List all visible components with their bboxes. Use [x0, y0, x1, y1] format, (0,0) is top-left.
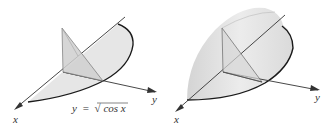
radical-icon: √ [95, 102, 102, 114]
equation-radicand: cos x [103, 102, 125, 114]
right-figure: x y [165, 0, 329, 131]
x-axis-label: x [173, 113, 179, 125]
curve-equation: y = √ cos x [71, 102, 126, 114]
y-axis-label: y [151, 93, 157, 105]
equation-equals: = [83, 102, 89, 114]
right-diagram: x y [165, 0, 329, 131]
equation-lhs: y [71, 102, 77, 114]
left-diagram: x y y = √ cos x [0, 0, 165, 131]
left-figure: x y y = √ cos x [0, 0, 165, 131]
x-axis-label: x [12, 113, 18, 125]
y-axis-label: y [314, 91, 320, 103]
